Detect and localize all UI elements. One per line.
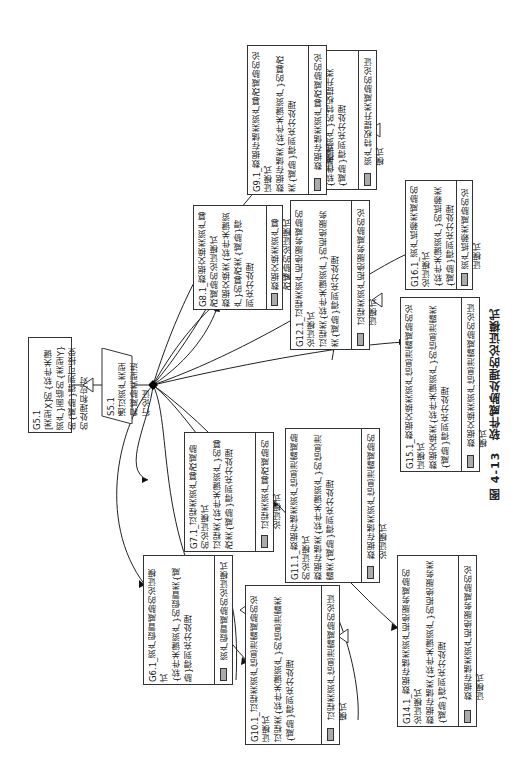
goal-text: 过程类{软件关键资产}的篡改类{威胁}得到充分处理 (213, 439, 235, 549)
goal-text: 数据交换类{软件关键资产}的篡改类{威胁}得到充分处理 (222, 212, 256, 307)
module-icon (261, 535, 268, 548)
module-ref[interactable]: 数据存储类资产拒绝服务威胁的论证模式 (458, 556, 477, 726)
goal-title: G16.1_资产抵赖类威胁的论证模式 (410, 185, 432, 287)
module-label: 过程类资产拒绝服务威胁的论证模式 (356, 205, 368, 325)
module-label: 资产假冒威胁的论证模式 (219, 560, 231, 660)
goal-text: 数据存储类{软件关键资产}的拒绝服务类{威胁}得到充分处理 (426, 560, 448, 724)
module-ref[interactable]: 资产抵赖类威胁的论证模式 (456, 181, 473, 289)
module-ref[interactable]: 数据交换类资产篡改威胁的论证模式 (266, 206, 283, 309)
module-label: 数据存储类资产信息泄露威胁的论证模式 (366, 433, 378, 559)
goal-g15-1: G15.1_数据交换类资产信息泄露威胁的论证模式 数据交换类{软件关键资产}的信… (400, 297, 480, 472)
module-ref[interactable]: 数据存储类资产信息泄露威胁的论证模式 (361, 429, 380, 582)
module-label: 资产抵赖类威胁的论证模式 (460, 185, 472, 269)
module-icon (271, 293, 278, 306)
goal-text: 数据交换类{软件关键资产}的信息泄露类{威胁}得到充分处理 (429, 305, 451, 469)
module-label: 过程类资产信息泄露威胁的论证模式 (326, 590, 338, 720)
goal-title: G6.1_资产假冒威胁的论证模式 (148, 568, 170, 682)
module-label: 数据存储类资产篡改威胁的论证模式 (313, 50, 325, 170)
figure-caption: 图 4-13 软件威胁处理的论证模式 (488, 300, 504, 500)
goal-g7-1: G7.1_过程类资产篡改威胁的论证模式 过程类{软件关键资产}的篡改类{威胁}得… (184, 432, 274, 552)
root-goal-g5-1: G5.1 [类型X]的{软件关键资产}面临的{类型Y}的{威胁}得到可接受的处理… (28, 337, 72, 433)
module-ref[interactable]: 过程类资产拒绝服务威胁的论证模式 (351, 201, 370, 349)
module-icon (357, 333, 364, 346)
module-ref[interactable]: 资产特权提升类威胁的论证模式 (358, 51, 377, 189)
goal-title: G11.1_数据存储类资产信息泄露威胁的论证模式 (290, 433, 312, 580)
strategy-id: S5.1 (106, 397, 116, 416)
module-ref[interactable]: 资产假冒威胁的论证模式 (214, 556, 233, 684)
root-goal-id: G5.1 [类型X]的{软件关键资产}面临的{类型Y}的{威胁}得到可接受的处理… (31, 342, 71, 430)
module-icon (314, 178, 321, 191)
module-ref[interactable]: 数据存储类资产篡改威胁的论证模式 (308, 46, 327, 194)
strategy-s5-1: S5.1 通过资产类型和威胁类型进行论证 (98, 348, 134, 424)
goal-text: 过程类{软件关键资产}的信息泄露类{威胁}得到充分处理 (274, 596, 296, 742)
goal-text: {软件关键资产}的抵赖类{威胁}得到充分处理 (434, 186, 456, 287)
module-icon (467, 455, 474, 468)
module-label: 过程类资产篡改威胁的论证模式 (260, 437, 272, 529)
goal-title: G7.1_过程类资产篡改威胁的论证模式 (189, 444, 211, 549)
module-label: 数据交换类资产信息泄露威胁的论证模式 (466, 302, 478, 447)
root-goal-id-text: G5.1 (32, 410, 42, 430)
module-label: 资产特权提升类威胁的论证模式 (363, 55, 375, 165)
module-ref[interactable]: 过程类资产篡改威胁的论证模式 (255, 433, 274, 551)
goal-g14-1: G14.1_数据存储类资产拒绝服务威胁的论证模式 数据存储类{软件关键资产}的拒… (397, 555, 477, 727)
module-icon (464, 710, 471, 723)
module-ref[interactable]: 数据交换类资产信息泄露威胁的论证模式 (461, 298, 480, 471)
goal-title: G12.1_过程类资产拒绝服务威胁的论证模式 (295, 209, 317, 347)
goal-g8-1: G8.1_数据交换类资产篡改威胁的论证模式 数据交换类{软件关键资产}的篡改类{… (193, 205, 283, 310)
module-icon (461, 273, 468, 286)
goal-text: {软件关键资产}的假冒类{威胁}得到充分处理 (172, 567, 194, 682)
goal-g9-1: G9.1_数据存储类资产篡改威胁的论证模式 数据存储类{软件关键资产}的篡改类{… (247, 45, 327, 195)
goal-title: G15.1_数据交换类资产信息泄露威胁的论证模式 (405, 304, 427, 469)
goal-text: 过程类{软件关键资产}的拒绝服务类{威胁}得到充分处理 (319, 210, 341, 347)
goal-text: 数据存储类{软件关键资产}的篡改类{威胁}得到充分处理 (276, 55, 298, 192)
goal-g11-1: G11.1_数据存储类资产信息泄露威胁的论证模式 数据存储类{软件关键资产}的信… (285, 428, 380, 583)
module-label: 数据存储类资产拒绝服务威胁的论证模式 (463, 560, 475, 700)
goal-title: G14.1_数据存储类资产拒绝服务威胁的论证模式 (402, 568, 424, 724)
goal-title: G8.1_数据交换类资产篡改威胁的论证模式 (198, 211, 220, 307)
goal-title: G10.1_过程类资产信息泄露威胁的论证模式 (250, 595, 272, 742)
goal-g6-1: G6.1_资产假冒威胁的论证模式 {软件关键资产}的假冒类{威胁}得到充分处理 … (143, 555, 233, 685)
goal-g10-1: G10.1_过程类资产信息泄露威胁的论证模式 过程类{软件关键资产}的信息泄露类… (245, 585, 340, 745)
goal-g12-1: G12.1_过程类资产拒绝服务威胁的论证模式 过程类{软件关键资产}的拒绝服务类… (290, 200, 370, 350)
module-label: 数据交换类资产篡改威胁的论证模式 (270, 210, 282, 290)
goal-text: 数据存储类{软件关键资产}的信息泄露类{威胁}得到充分处理 (314, 434, 336, 580)
goal-title: G9.1_数据存储类资产篡改威胁的论证模式 (252, 51, 274, 192)
module-icon (364, 173, 371, 186)
module-icon (220, 668, 227, 681)
goal-g16-1: G16.1_资产抵赖类威胁的论证模式 {软件关键资产}的抵赖类{威胁}得到充分处… (405, 180, 473, 290)
module-icon (327, 728, 334, 741)
module-ref[interactable]: 过程类资产信息泄露威胁的论证模式 (321, 586, 340, 744)
module-icon (367, 566, 374, 579)
